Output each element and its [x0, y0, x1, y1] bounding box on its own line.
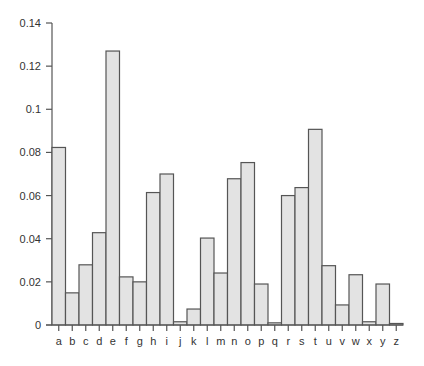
- x-tick-label: v: [340, 335, 346, 347]
- x-tick-label: c: [83, 335, 89, 347]
- y-tick-label: 0.14: [20, 17, 41, 29]
- y-tick-label: 0.1: [26, 103, 41, 115]
- bar-d: [93, 233, 107, 325]
- x-tick-label: o: [245, 335, 251, 347]
- x-axis: abcdefghijklmnopqrstuvwxyz: [46, 325, 403, 347]
- bar-p: [255, 284, 269, 325]
- bar-e: [106, 51, 120, 325]
- letter-frequency-bar-chart: 00.020.040.060.080.10.120.14 abcdefghijk…: [0, 0, 424, 366]
- bar-h: [147, 193, 161, 325]
- x-tick-label: a: [56, 335, 63, 347]
- x-tick-label: i: [166, 335, 168, 347]
- bar-y: [376, 284, 390, 325]
- y-tick-label: 0.12: [20, 60, 41, 72]
- bar-t: [309, 129, 323, 325]
- bars: [52, 51, 403, 325]
- x-tick-label: e: [110, 335, 116, 347]
- x-tick-label: q: [272, 335, 278, 347]
- bar-m: [214, 273, 228, 325]
- x-tick-label: s: [299, 335, 305, 347]
- x-tick-label: j: [178, 335, 181, 347]
- x-tick-label: z: [394, 335, 400, 347]
- bar-s: [295, 188, 309, 325]
- bar-b: [66, 293, 80, 325]
- y-axis: 00.020.040.060.080.10.120.14: [20, 17, 52, 331]
- x-tick-label: t: [314, 335, 317, 347]
- x-tick-label: y: [380, 335, 386, 347]
- y-tick-label: 0.02: [20, 276, 41, 288]
- y-tick-label: 0: [35, 319, 41, 331]
- x-tick-label: l: [206, 335, 208, 347]
- bar-a: [52, 147, 66, 325]
- x-tick-label: p: [258, 335, 264, 347]
- x-tick-label: n: [231, 335, 237, 347]
- x-tick-label: d: [96, 335, 102, 347]
- bar-w: [349, 275, 363, 325]
- bar-c: [79, 265, 93, 325]
- x-tick-label: h: [150, 335, 156, 347]
- x-tick-label: u: [326, 335, 332, 347]
- bar-o: [241, 163, 255, 325]
- x-tick-label: r: [286, 335, 290, 347]
- x-tick-label: g: [137, 335, 143, 347]
- bar-f: [120, 277, 134, 325]
- y-tick-label: 0.06: [20, 190, 41, 202]
- bar-i: [160, 174, 174, 325]
- bar-g: [133, 282, 147, 325]
- bar-k: [187, 309, 201, 325]
- bar-v: [336, 305, 350, 325]
- x-tick-label: m: [216, 335, 225, 347]
- bar-l: [201, 238, 215, 325]
- x-tick-label: k: [191, 335, 197, 347]
- bar-u: [322, 266, 336, 325]
- x-tick-label: f: [125, 335, 129, 347]
- x-tick-label: b: [69, 335, 75, 347]
- x-tick-label: x: [367, 335, 373, 347]
- y-tick-label: 0.04: [20, 233, 41, 245]
- bar-n: [228, 179, 242, 325]
- x-tick-label: w: [351, 335, 360, 347]
- y-tick-label: 0.08: [20, 146, 41, 158]
- bar-r: [282, 196, 296, 325]
